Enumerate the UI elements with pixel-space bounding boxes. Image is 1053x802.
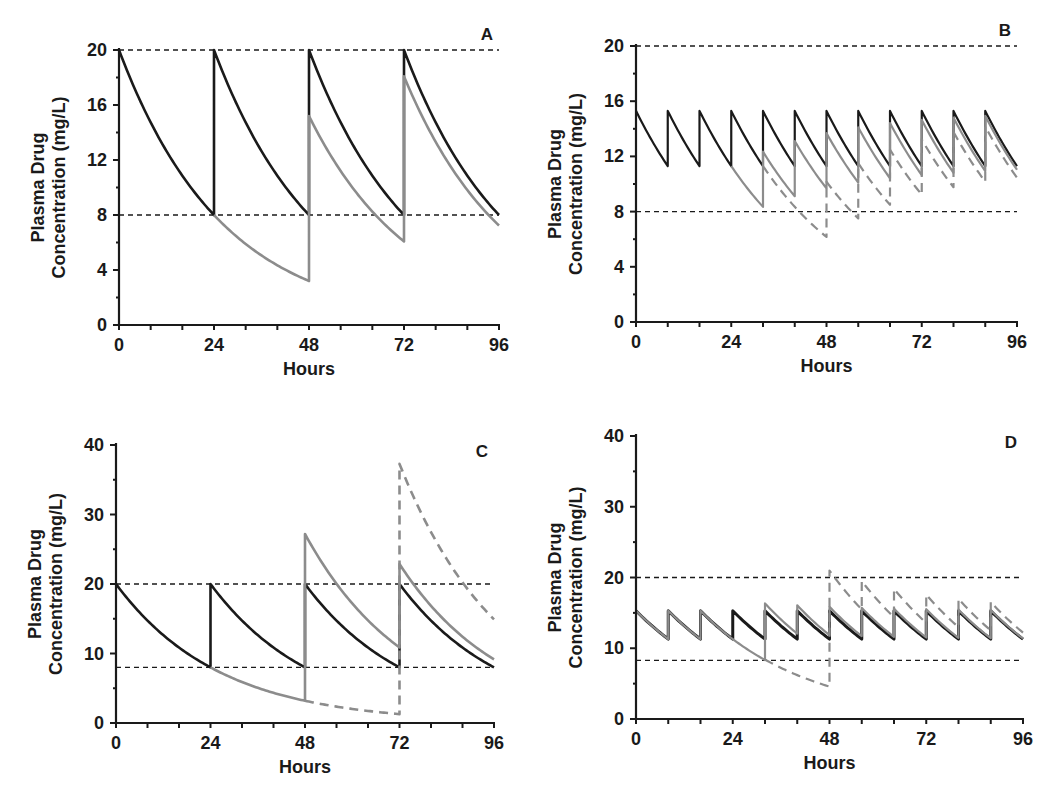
x-tick-label: 24	[204, 335, 224, 355]
panel-a: 048121620024487296HoursPlasma DrugConcen…	[28, 25, 509, 379]
y-tick-label: 20	[604, 36, 624, 56]
y-axis-title-line2: Concentration (mg/L)	[46, 493, 66, 675]
series-line-2	[211, 534, 495, 701]
panel-label: C	[476, 442, 488, 461]
y-axis-title-line1: Plasma Drug	[25, 529, 45, 639]
y-tick-label: 8	[614, 202, 624, 222]
y-tick-label: 12	[87, 150, 107, 170]
x-tick-label: 72	[389, 733, 409, 753]
x-tick-label: 0	[631, 332, 641, 352]
x-tick-label: 0	[114, 335, 124, 355]
panel-label: B	[999, 21, 1011, 40]
y-tick-label: 40	[84, 435, 104, 455]
x-tick-label: 48	[299, 335, 319, 355]
series-line-2	[731, 116, 1017, 207]
x-tick-label: 24	[721, 332, 741, 352]
x-tick-label: 96	[484, 733, 504, 753]
panel-d: 010203040024487296HoursPlasma DrugConcen…	[545, 426, 1033, 773]
panel-c: 010203040024487296HoursPlasma DrugConcen…	[25, 435, 504, 777]
y-axis-title-line2: Concentration (mg/L)	[49, 97, 69, 279]
x-axis-title: Hours	[283, 359, 335, 379]
x-tick-label: 0	[111, 733, 121, 753]
y-tick-label: 0	[614, 709, 624, 729]
y-axis-title-line1: Plasma Drug	[545, 522, 565, 632]
y-axis-title-line2: Concentration (mg/L)	[566, 93, 586, 275]
panel-label: A	[481, 25, 493, 44]
x-tick-label: 72	[912, 332, 932, 352]
x-tick-label: 48	[816, 332, 836, 352]
y-tick-label: 16	[87, 95, 107, 115]
x-axis-title: Hours	[803, 753, 855, 773]
y-tick-label: 12	[604, 146, 624, 166]
y-tick-label: 4	[97, 260, 107, 280]
y-tick-label: 4	[614, 257, 624, 277]
y-axis-title-line2: Concentration (mg/L)	[566, 487, 586, 669]
x-tick-label: 96	[1013, 729, 1033, 749]
y-tick-label: 20	[84, 574, 104, 594]
x-tick-label: 24	[200, 733, 220, 753]
y-axis-title-line1: Plasma Drug	[28, 132, 48, 242]
y-tick-label: 20	[604, 568, 624, 588]
x-tick-label: 72	[916, 729, 936, 749]
panel-label: D	[1005, 433, 1017, 452]
x-tick-label: 48	[295, 733, 315, 753]
x-tick-label: 96	[489, 335, 509, 355]
y-tick-label: 20	[87, 40, 107, 60]
x-tick-label: 0	[631, 729, 641, 749]
panel-b: 048121620024487296HoursPlasma DrugConcen…	[545, 21, 1027, 376]
y-tick-label: 30	[604, 497, 624, 517]
x-axis-title: Hours	[800, 356, 852, 376]
y-tick-label: 0	[97, 315, 107, 335]
y-tick-label: 10	[84, 644, 104, 664]
y-axis-title-line1: Plasma Drug	[545, 129, 565, 239]
x-tick-label: 24	[723, 729, 743, 749]
series-line-2	[214, 76, 499, 281]
y-tick-label: 16	[604, 91, 624, 111]
y-tick-label: 0	[614, 312, 624, 332]
y-tick-label: 8	[97, 205, 107, 225]
x-tick-label: 96	[1007, 332, 1027, 352]
x-axis-title: Hours	[279, 757, 331, 777]
figure-canvas: 048121620024487296HoursPlasma DrugConcen…	[0, 0, 1053, 802]
y-tick-label: 0	[94, 713, 104, 733]
y-tick-label: 40	[604, 426, 624, 446]
y-tick-label: 30	[84, 505, 104, 525]
y-tick-label: 10	[604, 638, 624, 658]
x-tick-label: 72	[394, 335, 414, 355]
x-tick-label: 48	[819, 729, 839, 749]
